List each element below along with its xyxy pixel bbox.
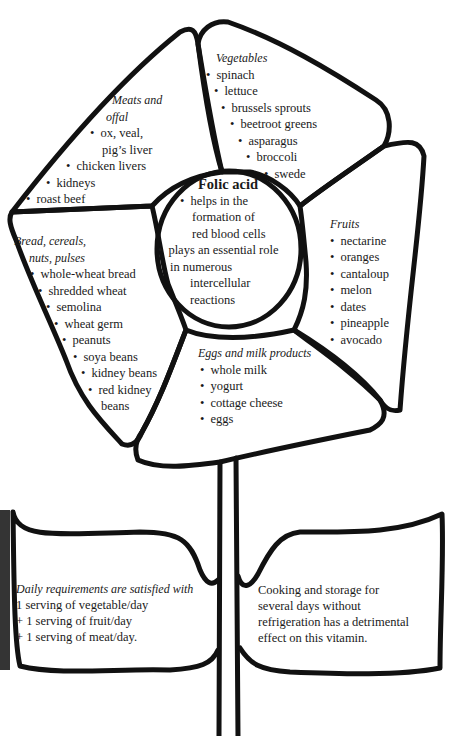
petal-vegetables: Vegetables spinach lettuce brussels spro… xyxy=(206,50,317,182)
list-item-continuation: pig’s liver xyxy=(102,142,162,159)
list-item: broccoli xyxy=(246,149,317,166)
leaf-left-line: + 1 serving of fruit/day xyxy=(16,613,193,629)
list-item: pineapple xyxy=(330,315,389,332)
center-folic-acid: Folic acid helps in the formation of red… xyxy=(158,176,278,308)
list-item: spinach xyxy=(206,67,317,84)
list-item: asparagus xyxy=(238,133,317,150)
center-title: Folic acid xyxy=(198,176,278,193)
center-point: helps in the xyxy=(180,193,278,210)
list-item: yogurt xyxy=(200,378,311,395)
leaf-right-line: refrigeration has a detrimental xyxy=(258,614,409,630)
list-item: nectarine xyxy=(330,233,389,250)
list-item: cantaloup xyxy=(330,266,389,283)
list-item: peanuts xyxy=(62,332,157,349)
list-item: roast beef xyxy=(26,191,162,208)
list-item: chicken livers xyxy=(66,158,162,175)
leaf-right-line: effect on this vitamin. xyxy=(258,630,409,646)
stem-outline xyxy=(219,458,238,736)
petal-eggs-milk: Eggs and milk products whole milk yogurt… xyxy=(198,345,311,428)
leaf-left-line: + 1 serving of meat/day. xyxy=(16,629,193,645)
petal-meats: Meats and offal ox, veal, pig’s liver ch… xyxy=(38,92,162,208)
center-point-continuation: intercellular xyxy=(190,275,278,292)
list-item: brussels sprouts xyxy=(221,100,317,117)
list-item: whole milk xyxy=(200,362,311,379)
list-item: kidneys xyxy=(46,175,162,192)
petal-fruits-heading: Fruits xyxy=(330,216,389,233)
center-point-continuation: reactions xyxy=(190,292,278,309)
center-point-continuation: formation of xyxy=(192,209,278,226)
list-item: lettuce xyxy=(214,83,317,100)
list-item: soya beans xyxy=(73,349,157,366)
list-item: wheat germ xyxy=(54,316,157,333)
list-item: avocado xyxy=(330,332,389,349)
leaf-right-line: several days without xyxy=(258,598,409,614)
list-item: dates xyxy=(330,299,389,316)
leaf-right-text: Cooking and storage for several days wit… xyxy=(258,582,409,646)
petal-meats-heading-2: offal xyxy=(106,109,162,126)
list-item-continuation: beans xyxy=(101,398,157,415)
list-item: red kidney xyxy=(88,382,157,399)
list-item: beetroot greens xyxy=(230,116,317,133)
petal-bread-heading-2: nuts, pulses xyxy=(29,250,157,267)
leaf-left-intro: Daily requirements are satisfied with xyxy=(16,581,193,597)
list-item: oranges xyxy=(330,249,389,266)
center-point-continuation: red blood cells xyxy=(192,226,278,243)
list-item: kidney beans xyxy=(81,365,157,382)
list-item: semolina xyxy=(46,299,157,316)
leaf-right-line: Cooking and storage for xyxy=(258,582,409,598)
list-item: eggs xyxy=(200,411,311,428)
petal-fruits: Fruits nectarine oranges cantaloup melon… xyxy=(330,216,389,348)
petal-eggs-milk-heading: Eggs and milk products xyxy=(198,345,311,362)
petal-bread-heading: Bread, cereals, xyxy=(14,233,157,250)
list-item: melon xyxy=(330,282,389,299)
list-item: shredded wheat xyxy=(38,283,157,300)
petal-meats-heading: Meats and xyxy=(112,92,162,109)
list-item: whole-wheat bread xyxy=(30,266,157,283)
list-item: cottage cheese xyxy=(200,395,311,412)
petal-bread: Bread, cereals, nuts, pulses whole-wheat… xyxy=(14,233,157,415)
center-point-continuation: in numerous xyxy=(170,259,278,276)
leaf-left-line: 1 serving of vegetable/day xyxy=(16,597,193,613)
center-point: plays an essential role xyxy=(158,242,278,259)
list-item: ox, veal, xyxy=(90,125,162,142)
leaf-left-text: Daily requirements are satisfied with 1 … xyxy=(16,581,193,645)
petal-vegetables-heading: Vegetables xyxy=(216,50,317,67)
scan-edge-shadow xyxy=(0,510,10,670)
